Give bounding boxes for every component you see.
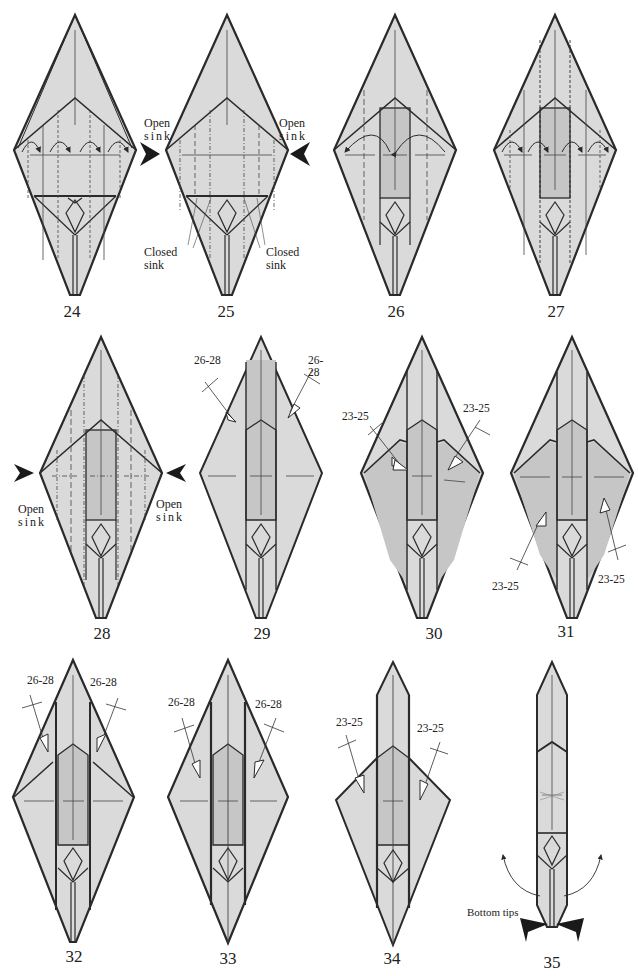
step-35: Bottom tips 35 xyxy=(470,650,638,976)
bottom-tips-label: Bottom tips xyxy=(467,906,519,919)
reference-label: 26-28 xyxy=(255,698,282,710)
step-24: 24 xyxy=(0,0,160,330)
reference-label: 26-28 xyxy=(168,696,195,708)
step-34: 23-25 23-25 34 xyxy=(320,650,470,976)
label-sink: sink xyxy=(266,259,299,272)
reference-label: 26-28 xyxy=(194,354,221,366)
step-27: 27 xyxy=(480,0,638,330)
step-28-diagram xyxy=(0,330,180,650)
step-29: 26-28 26-28 29 xyxy=(180,330,330,650)
step-number: 27 xyxy=(536,302,576,322)
step-number: 29 xyxy=(242,624,282,644)
step-34-diagram xyxy=(320,650,470,976)
step-number: 26 xyxy=(376,302,416,322)
step-27-diagram xyxy=(480,0,638,330)
reference-label: 23-25 xyxy=(598,573,625,585)
step-31-diagram xyxy=(490,330,638,650)
step-30: 23-25 23-25 30 xyxy=(330,330,490,650)
step-24-diagram xyxy=(0,0,160,330)
reference-label: 23-25 xyxy=(417,722,444,734)
reference-label: 23-25 xyxy=(342,410,369,422)
step-32-diagram xyxy=(0,650,160,976)
reference-label: 23-25 xyxy=(336,716,363,728)
step-number: 33 xyxy=(208,949,248,969)
step-number: 35 xyxy=(532,953,572,973)
open-sink-label-right: Open sink xyxy=(279,117,307,143)
step-35-diagram xyxy=(470,650,638,976)
reference-label: 23-25 xyxy=(492,580,519,592)
step-number: 24 xyxy=(52,302,92,322)
closed-sink-label-right: Closed sink xyxy=(266,246,299,272)
label-sink: sink xyxy=(18,516,46,529)
step-28: Open sink Open sink 28 xyxy=(0,330,180,650)
open-sink-label-left: Open sink xyxy=(18,503,46,529)
label-sink: sink xyxy=(144,130,172,143)
step-number: 34 xyxy=(372,949,412,969)
reference-label: 23-25 xyxy=(463,402,490,414)
step-31: 23-25 23-25 31 xyxy=(490,330,638,650)
step-26: 26 xyxy=(320,0,480,330)
reference-label: 26-28 xyxy=(90,676,117,688)
step-number: 32 xyxy=(54,947,94,967)
step-number: 30 xyxy=(414,624,454,644)
step-29-diagram xyxy=(180,330,330,650)
step-30-diagram xyxy=(330,330,490,650)
step-number: 31 xyxy=(546,622,586,642)
step-32: 26-28 26-28 32 xyxy=(0,650,160,976)
step-33: 26-28 26-28 33 xyxy=(160,650,320,976)
step-number: 28 xyxy=(82,624,122,644)
reference-label: 26-28 xyxy=(308,354,330,378)
reference-label: 26-28 xyxy=(27,674,54,686)
closed-sink-label-left: Closed sink xyxy=(144,246,177,272)
open-sink-label-left: Open sink xyxy=(144,117,172,143)
sink-arrow-left-icon xyxy=(290,142,310,166)
step-26-diagram xyxy=(320,0,480,330)
sink-arrow-right-icon xyxy=(14,464,34,482)
step-number: 25 xyxy=(206,302,246,322)
label-sink: sink xyxy=(144,259,177,272)
sink-arrow-right-icon xyxy=(140,142,160,166)
